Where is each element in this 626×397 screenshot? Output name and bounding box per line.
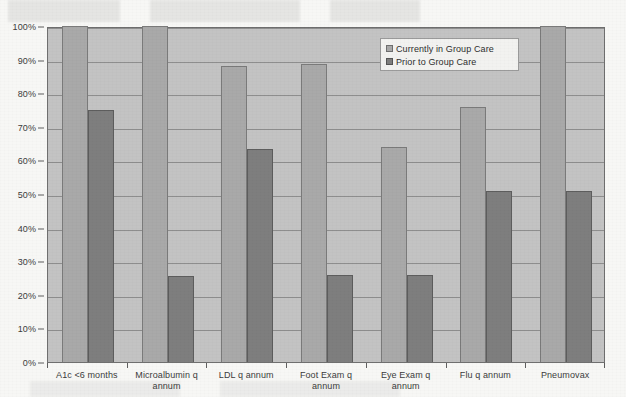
legend-item-label: Currently in Group Care (396, 44, 494, 54)
bar[interactable] (460, 107, 486, 362)
bar[interactable] (142, 26, 168, 362)
bar[interactable] (62, 26, 88, 362)
x-axis-tick-mark (286, 363, 287, 368)
x-axis-category-label: LDL q annum (206, 370, 286, 381)
y-axis-tick-mark (38, 228, 44, 229)
bar[interactable] (301, 64, 327, 362)
y-axis-tick-mark (38, 127, 44, 128)
x-axis-category-label: Eye Exam q annum (366, 370, 446, 392)
x-axis-tick-mark (206, 363, 207, 368)
plot-area (47, 27, 605, 363)
bar-group (48, 28, 128, 362)
legend-swatch-icon (386, 58, 393, 65)
legend-swatch-icon (386, 45, 393, 52)
bar[interactable] (486, 191, 512, 362)
bar-group (367, 28, 447, 362)
x-axis-category-label: Pneumovax (525, 370, 605, 381)
x-axis-category-label: Foot Exam q annum (286, 370, 366, 392)
y-axis-tick-mark (38, 60, 44, 61)
y-axis-tick-label: 50% (18, 190, 36, 200)
chart-legend: Currently in Group CarePrior to Group Ca… (380, 38, 519, 71)
bar-group (128, 28, 208, 362)
y-axis-tick-mark (38, 295, 44, 296)
x-axis-tick-mark (446, 363, 447, 368)
x-axis-tick-mark (127, 363, 128, 368)
bar[interactable] (168, 276, 194, 362)
bar-group (207, 28, 287, 362)
bar[interactable] (327, 275, 353, 362)
x-axis-category-label: Microalbumin q annum (127, 370, 207, 392)
legend-item-label: Prior to Group Care (396, 57, 476, 67)
bar[interactable] (540, 26, 566, 362)
y-axis-tick-mark (38, 27, 44, 28)
y-axis-tick-label: 90% (18, 56, 36, 66)
x-axis-category-label: Flu q annum (446, 370, 526, 381)
y-axis-tick-label: 40% (18, 224, 36, 234)
bar[interactable] (247, 149, 273, 362)
y-axis-tick-label: 100% (13, 22, 36, 32)
bar-group (526, 28, 606, 362)
y-axis-tick-label: 30% (18, 257, 36, 267)
bar-group (447, 28, 527, 362)
y-axis-tick-mark (38, 195, 44, 196)
x-axis-tick-mark (604, 363, 605, 368)
y-axis: 0%10%20%30%40%50%60%70%80%90%100% (0, 27, 43, 363)
y-axis-tick-label: 60% (18, 156, 36, 166)
y-axis-tick-mark (38, 161, 44, 162)
x-axis-tick-mark (525, 363, 526, 368)
y-axis-tick-mark (38, 262, 44, 263)
bar[interactable] (566, 191, 592, 362)
y-axis-tick-label: 70% (18, 123, 36, 133)
x-axis-category-label: A1c <6 months (47, 370, 127, 381)
legend-item[interactable]: Currently in Group Care (386, 42, 513, 55)
y-axis-tick-label: 0% (23, 358, 36, 368)
x-axis: A1c <6 monthsMicroalbumin q annumLDL q a… (47, 363, 605, 397)
y-axis-tick-label: 10% (18, 324, 36, 334)
bar[interactable] (221, 66, 247, 362)
x-axis-tick-mark (366, 363, 367, 368)
legend-item[interactable]: Prior to Group Care (386, 55, 513, 68)
bar-group (287, 28, 367, 362)
bar[interactable] (88, 110, 114, 362)
chart-screenshot: 0%10%20%30%40%50%60%70%80%90%100% A1c <6… (0, 0, 626, 397)
x-axis-tick-mark (47, 363, 48, 368)
y-axis-tick-label: 80% (18, 89, 36, 99)
y-axis-tick-mark (38, 94, 44, 95)
bar[interactable] (381, 147, 407, 362)
y-axis-tick-label: 20% (18, 291, 36, 301)
y-axis-tick-mark (38, 329, 44, 330)
scan-bleedthrough-top (0, 0, 626, 22)
bar[interactable] (407, 275, 433, 362)
y-axis-tick-mark (38, 363, 44, 364)
